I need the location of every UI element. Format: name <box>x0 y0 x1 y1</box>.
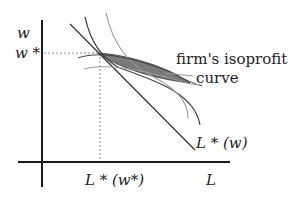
labor-demand-line <box>70 24 195 150</box>
labor-demand-label: L * (w) <box>195 134 248 152</box>
isoprofit-label-line1: firm's isoprofit <box>176 50 287 68</box>
y-axis-label: w <box>17 24 30 42</box>
isoprofit-diagram: w w * firm's isoprofit curve L * (w) L *… <box>0 0 291 197</box>
l-star-label: L * (w*) <box>84 171 144 189</box>
x-axis-label: L <box>205 171 216 189</box>
w-star-label: w * <box>15 44 41 62</box>
isoprofit-label-line2: curve <box>196 69 239 87</box>
